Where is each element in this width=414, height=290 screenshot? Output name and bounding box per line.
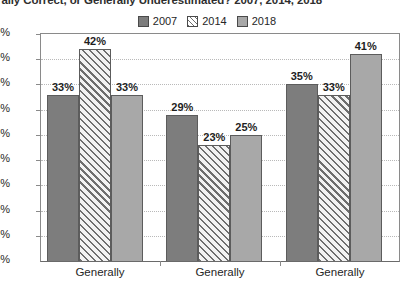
bar-2018[interactable]: 33% [111, 95, 143, 261]
bar-value-label: 33% [323, 81, 345, 93]
bar-value-label: 35% [291, 70, 313, 82]
y-tick-mark [36, 110, 41, 111]
legend-swatch-icon-2007 [138, 16, 149, 27]
y-tick-label: 35% [0, 76, 10, 88]
x-axis-label: Generally [160, 266, 280, 279]
bar-2014[interactable]: 33% [318, 95, 350, 261]
y-tick-label: 30% [0, 102, 10, 114]
x-axis-label: Generally [40, 266, 160, 279]
bar-value-label: 33% [52, 81, 74, 93]
bar-2007[interactable]: 33% [47, 95, 79, 261]
y-tick-mark [36, 59, 41, 60]
bar-2018[interactable]: 25% [230, 135, 262, 261]
bar-value-label: 25% [235, 121, 257, 133]
bar-value-label: 42% [84, 35, 106, 47]
y-tick-label: 10% [0, 203, 10, 215]
y-tick-label: 15% [0, 177, 10, 189]
y-tick-mark [36, 160, 41, 161]
bar-group: 35%33%41% [280, 34, 399, 261]
bar-2007[interactable]: 29% [166, 115, 198, 261]
legend-swatch-icon-2018 [237, 16, 248, 27]
y-tick-mark [36, 135, 41, 136]
y-tick-label: 5% [0, 228, 10, 240]
legend-swatch-icon-2014 [187, 16, 198, 27]
y-tick-mark [36, 84, 41, 85]
y-tick-label: 45% [0, 26, 10, 38]
bar-groups: 33%42%33%29%23%25%35%33%41% [41, 34, 399, 261]
legend-label-2014: 2014 [202, 15, 226, 27]
chart-legend: 2007 2014 2018 [0, 15, 414, 27]
bar-group: 33%42%33% [41, 34, 160, 261]
x-axis-labels: GenerallyGenerallyGenerally [40, 266, 400, 279]
bar-value-label: 29% [171, 101, 193, 113]
y-tick-mark [36, 185, 41, 186]
bar-group: 29%23%25% [160, 34, 279, 261]
y-tick-mark [36, 211, 41, 212]
y-tick-label: 20% [0, 152, 10, 164]
bar-value-label: 33% [116, 81, 138, 93]
bar-value-label: 41% [355, 40, 377, 52]
plot-area: 33%42%33%29%23%25%35%33%41% [40, 33, 400, 262]
bar-2014[interactable]: 23% [198, 145, 230, 261]
legend-item-2018[interactable]: 2018 [237, 15, 276, 27]
y-tick-mark [36, 236, 41, 237]
bar-value-label: 23% [203, 131, 225, 143]
y-tick-label: 40% [0, 51, 10, 63]
x-axis-label: Generally [280, 266, 400, 279]
legend-label-2018: 2018 [252, 15, 276, 27]
legend-item-2007[interactable]: 2007 [138, 15, 177, 27]
y-tick-label: 0% [0, 253, 10, 265]
y-tick-mark [36, 34, 41, 35]
bar-2014[interactable]: 42% [79, 49, 111, 261]
chart-title: rally Correct, or Generally Underestimat… [0, 0, 414, 6]
legend-item-2014[interactable]: 2014 [187, 15, 226, 27]
bar-chart: rally Correct, or Generally Underestimat… [0, 0, 414, 290]
y-tick-label: 25% [0, 127, 10, 139]
legend-label-2007: 2007 [153, 15, 177, 27]
bar-2018[interactable]: 41% [350, 54, 382, 261]
bar-2007[interactable]: 35% [286, 84, 318, 261]
